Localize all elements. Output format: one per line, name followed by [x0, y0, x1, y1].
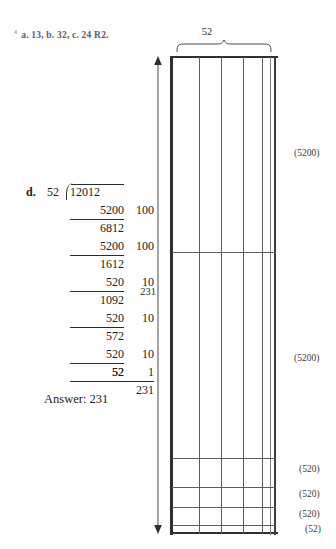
band-label-5: (520) — [299, 509, 320, 519]
rect-right-edge — [274, 57, 276, 535]
band-label-1: (5200) — [294, 148, 319, 158]
column-divider-4 — [262, 57, 263, 534]
column-divider-2 — [221, 57, 222, 534]
band-divider-2 — [172, 458, 276, 459]
band-label-3: (520) — [299, 464, 320, 474]
column-divider-3 — [243, 57, 244, 534]
band-divider-5 — [172, 525, 276, 526]
model-height-label: 231 — [130, 286, 156, 297]
area-rectangle — [172, 57, 276, 534]
area-model-diagram: 52 231 (5200) (5200) (5 — [0, 0, 336, 549]
rect-right-inner-edge — [270, 57, 271, 535]
column-divider-1 — [199, 57, 200, 534]
band-divider-3 — [172, 487, 276, 488]
band-divider-1 — [172, 252, 276, 253]
width-label-wrap: 52 — [0, 26, 336, 37]
width-brace-icon — [176, 40, 272, 53]
band-label-6: (52) — [305, 524, 321, 534]
worksheet-page: 4a. 13, b. 32, c. 24 R2. d. 52 12012 520… — [0, 0, 336, 549]
band-label-4: (520) — [299, 489, 320, 499]
band-label-2: (5200) — [294, 353, 319, 363]
rect-left-edge — [170, 57, 173, 535]
model-width-label: 52 — [202, 26, 213, 37]
band-divider-4 — [172, 507, 276, 508]
